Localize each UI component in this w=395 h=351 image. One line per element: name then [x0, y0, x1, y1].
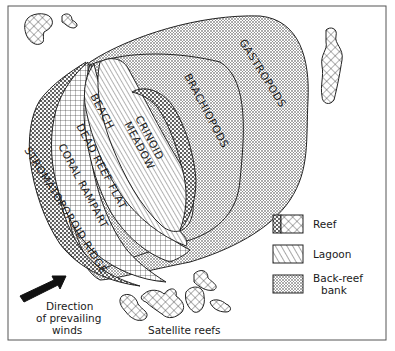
wind-label-line2: of prevailing: [36, 312, 101, 324]
legend-swatch-back-reef: [273, 275, 303, 293]
legend-swatch-lagoon: [273, 245, 303, 263]
legend-label-reef: Reef: [313, 218, 337, 230]
legend-swatch-reef-stipple: [273, 215, 281, 233]
reef-diagram: GASTROPODS BRACHIOPODS CRINOID MEADOW BE…: [0, 0, 395, 351]
legend-swatch-reef-cross: [281, 215, 303, 233]
wind-label-line3: winds: [52, 324, 82, 336]
legend-label-back-reef-2: bank: [321, 284, 348, 296]
legend-label-lagoon: Lagoon: [313, 248, 351, 260]
legend-label-back-reef-1: Back-reef: [313, 272, 363, 284]
wind-label-line1: Direction: [46, 300, 93, 312]
satellite-reefs-label: Satellite reefs: [148, 324, 221, 336]
